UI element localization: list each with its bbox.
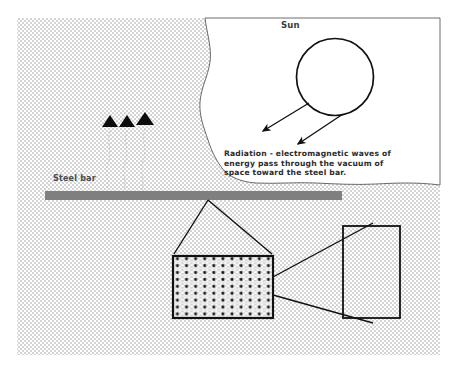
sun-label: Sun — [281, 20, 300, 30]
radiation-caption: Radiation - electromagnetic waves of ene… — [224, 149, 391, 178]
diagram-canvas — [0, 0, 450, 377]
steel-bar — [45, 191, 342, 200]
magnified-bar-detail-box — [173, 256, 273, 318]
steel-bar-label: Steel bar — [53, 174, 96, 183]
radiation-heat-transfer-diagram: Sun Steel bar Radiation - electromagneti… — [0, 0, 450, 377]
